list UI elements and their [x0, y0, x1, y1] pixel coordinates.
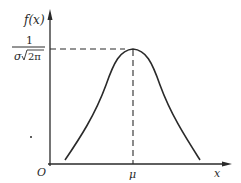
scan-speck [30, 136, 32, 138]
mean-label: μ [129, 168, 136, 181]
origin-label: O [37, 166, 46, 179]
peak-value-sigma: σ [14, 50, 22, 63]
peak-value-numerator: 1 [26, 34, 33, 47]
peak-value-sqrt-content: 2π [28, 51, 41, 62]
x-axis-arrow-icon [222, 162, 232, 167]
y-axis-label: f(x) [23, 13, 45, 27]
y-axis-arrow-icon [48, 9, 53, 20]
normal-distribution-diagram: f(x) 1 σ 2π O μ x [0, 0, 241, 183]
x-axis-label: x [214, 167, 221, 180]
